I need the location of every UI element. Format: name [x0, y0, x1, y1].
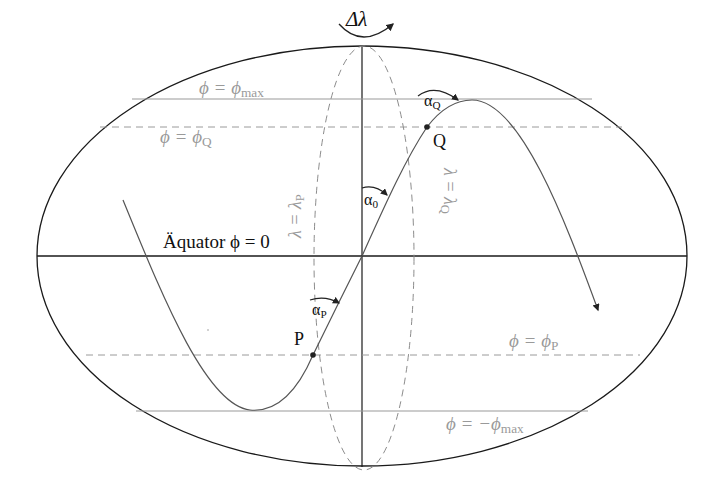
equator-label: Äquator ϕ = 0 — [163, 232, 270, 251]
alpha-0-label: α0 — [364, 192, 378, 210]
meridian-dashed-ellipse — [314, 46, 414, 470]
alpha-p-label: αP — [312, 302, 327, 320]
point-p-label: P — [294, 330, 304, 348]
phi-min-label: ϕ = −ϕmax — [446, 414, 524, 436]
phi-max-label: ϕ = ϕmax — [199, 78, 264, 100]
lambda-q-label: λ = λQ — [438, 168, 459, 214]
point-q-label: Q — [433, 132, 446, 150]
phi-q-label: ϕ = ϕQ — [160, 127, 212, 149]
stray-dot — [207, 329, 209, 331]
great-circle-diagram — [0, 0, 708, 501]
alpha-q-label: αQ — [424, 93, 440, 111]
point-q-dot — [424, 124, 430, 130]
lambda-p-label: λ = λP — [286, 194, 307, 238]
point-p-dot — [310, 352, 316, 358]
phi-p-label: ϕ = ϕP — [509, 331, 558, 353]
delta-lambda-label: Δλ — [346, 9, 367, 30]
